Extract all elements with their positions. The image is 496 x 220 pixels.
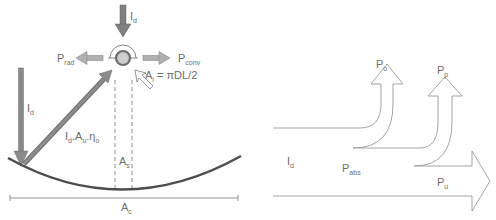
top-irradiance-arrow-icon: [115, 5, 131, 37]
input-irradiance-label: Id: [287, 155, 294, 169]
convection-loss-arrow-icon: [143, 52, 170, 65]
receiver-tube-icon: [108, 45, 138, 65]
radiation-loss-arrow-icon: [76, 52, 103, 65]
diagram-canvas: Id Prad Pconv Ai = πDL/2 Id: [0, 0, 496, 220]
collector-diagram: Id Prad Pconv Ai = πDL/2 Id: [8, 5, 241, 215]
absorbed-power-label: Pabs: [342, 162, 361, 176]
thermal-loss-flow-arrow: [353, 77, 462, 166]
top-irradiance-label: Id: [130, 10, 137, 24]
reflected-beam-arrow-icon: [24, 70, 112, 164]
collector-area-label: Ac: [121, 201, 132, 215]
shadow-area-label: As: [119, 155, 130, 169]
direct-irradiance-label: Id: [27, 102, 34, 116]
direct-irradiance-arrow-icon: [14, 68, 28, 166]
receiver-area-label: Ai = πDL/2: [145, 69, 197, 83]
optical-loss-label: Po: [376, 58, 387, 72]
reflected-beam-label: Id.Au.ηo: [65, 130, 99, 144]
optical-loss-flow-arrow: [273, 64, 403, 148]
energy-flow-diagram: Po Pp Id Pabs Pu: [273, 58, 490, 211]
shadow-projection-lines: [115, 80, 132, 190]
thermal-loss-label: Pp: [437, 64, 448, 79]
convection-loss-label: Pconv: [178, 52, 201, 66]
radiation-loss-label: Prad: [57, 52, 75, 66]
useful-power-flow-arrow: [273, 151, 490, 211]
